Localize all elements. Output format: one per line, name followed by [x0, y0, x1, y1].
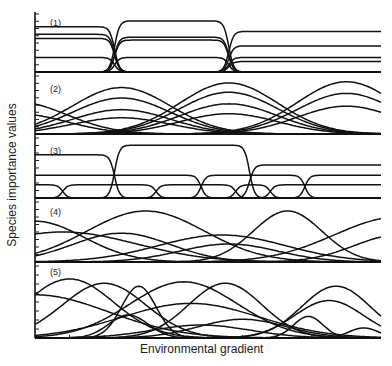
species-curve	[35, 175, 381, 198]
panel-label-4: (4)	[50, 207, 61, 217]
plot-area	[0, 0, 392, 366]
species-curve	[35, 301, 381, 338]
coenocline-figure: Species importance values Environmental …	[0, 0, 392, 366]
panel-label-5: (5)	[50, 267, 61, 277]
species-curve	[35, 175, 381, 198]
species-curve	[35, 40, 381, 72]
species-curve	[35, 46, 381, 72]
species-curve	[35, 37, 381, 72]
species-curve	[35, 303, 381, 337]
species-curve	[35, 145, 381, 198]
species-curve	[35, 38, 381, 72]
x-axis-label: Environmental gradient	[140, 342, 263, 356]
species-curve	[35, 58, 381, 73]
species-curve	[35, 165, 381, 198]
y-axis-label-text: Species importance values	[5, 103, 19, 246]
panel-label-2: (2)	[50, 84, 61, 94]
species-curve	[35, 58, 381, 73]
species-curve	[35, 175, 381, 198]
species-curve	[35, 62, 381, 72]
species-curve	[35, 58, 381, 73]
panel-label-1: (1)	[50, 18, 61, 28]
panel-label-3: (3)	[50, 146, 61, 156]
y-axis-label: Species importance values	[4, 90, 20, 260]
